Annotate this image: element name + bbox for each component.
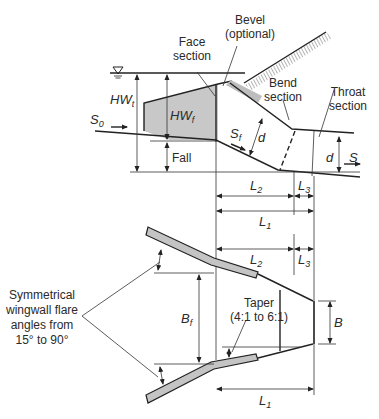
bevel-label-2: (optional) [225,27,275,41]
throat-section-label-2: section [329,99,367,113]
bottom-wingwall [146,354,258,403]
bend-section-line [280,131,295,170]
face-section-label-2: section [173,49,211,63]
l2-plan-label: L2 [250,252,262,269]
flare-leader-top [82,262,160,316]
fall-label: Fall [172,151,191,165]
bend-section-label-2: section [264,90,302,104]
face-section-label: Face [179,35,206,49]
l3-plan-label: L3 [298,252,310,269]
d-bend-label: d [258,130,266,145]
b-label: B [334,315,343,330]
s0-label: S0 [90,112,104,129]
taper-label-2: (4:1 to 6:1) [230,310,288,324]
bottom-taper-line [258,344,313,358]
plan-view: Symmetrical wingwall flare angles from 1… [5,227,343,410]
bottom-flare-angle [160,367,163,384]
throat-section-label: Throat [331,85,366,99]
flare-label-2: wingwall flare [5,303,78,317]
flare-leader-bottom [82,316,158,377]
s-label: S [349,150,358,165]
taper-label-1: Taper [244,296,274,310]
d-throat-label: d [326,150,334,165]
l2-top-label: L2 [250,178,262,195]
throat-section-line [312,131,314,176]
sf-label: Sf [230,126,243,143]
top-flare-angle [158,250,161,270]
top-wingwall [146,227,258,278]
bend-section-label: Bend [269,76,297,90]
barrel-bottom-line [95,131,360,177]
culvert-inlet-diagram: Bevel (optional) Face section Bend secti… [0,0,379,419]
hwt-label: HWt [110,92,135,109]
sf-flow-arrow [231,144,245,150]
profile-view: Bevel (optional) Face section Bend secti… [90,13,367,177]
flare-label-1: Symmetrical [9,288,75,302]
l1-top-label: L1 [259,214,271,231]
bevel-label: Bevel [235,13,265,27]
flare-label-4: 15° to 90° [16,333,69,347]
bf-label: Bf [181,311,194,328]
l1-bottom-label: L1 [259,393,271,410]
bevel-leader [223,46,237,86]
l3-top-label: L3 [298,178,310,195]
flare-label-3: angles from [11,318,74,332]
